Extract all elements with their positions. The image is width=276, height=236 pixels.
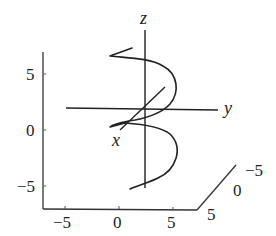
left-tick-5: 5 [26,65,35,84]
tick-marks [43,74,173,210]
plot-box [43,52,236,210]
left-tick-0: 0 [26,121,35,140]
bottom-tick-0: 0 [113,213,122,232]
depth-tick-0: 0 [233,181,242,200]
bottom-tick-minus5: −5 [53,213,71,232]
left-tick-minus5: −5 [17,177,35,196]
coordinate-axes [66,30,218,188]
x-axis-label: x [111,130,120,150]
z-axis-label: z [139,8,147,28]
depth-tick-minus5: −5 [245,161,263,180]
bottom-axis-line [43,209,197,210]
depth-axis-line [197,165,236,210]
y-axis-label: y [222,98,232,118]
helix-3d-plot: z y x 5 0 −5 −5 0 5 5 0 −5 [0,0,276,236]
depth-tick-5: 5 [207,205,216,224]
bottom-tick-5: 5 [167,213,176,232]
helix-curve [110,48,177,189]
